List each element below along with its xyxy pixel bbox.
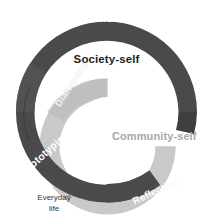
inner-core-disc	[78, 97, 138, 157]
outer-ring-cap-right	[176, 112, 197, 134]
diagram-canvas: Role-constructing Society-self Dialoguin…	[0, 0, 213, 224]
outer-ring-highlight-left	[16, 63, 46, 112]
spiral-diagram-graphic	[0, 0, 213, 224]
